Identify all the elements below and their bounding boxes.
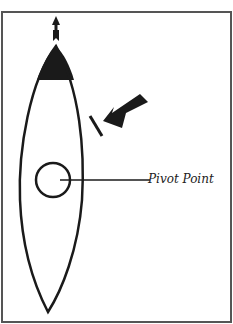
boat-pivot-diagram [0,0,233,324]
pivot-point-label: Pivot Point [148,172,214,186]
impact-line [90,116,102,136]
heading-arrow-icon [52,16,60,41]
frame [2,12,231,322]
force-arrow-icon [103,94,148,128]
boat-hull [20,46,83,312]
